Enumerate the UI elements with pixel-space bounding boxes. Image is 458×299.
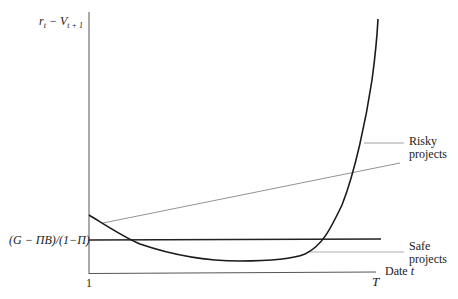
safe-label-line2: projects — [409, 253, 447, 266]
safe-projects-curve — [89, 19, 378, 261]
x-axis-label: Date t — [385, 265, 414, 278]
y-axis-label: rt − Vt + 1 — [39, 15, 83, 32]
x-start-label: 1 — [86, 277, 92, 290]
x-axis-label-var: t — [411, 264, 414, 278]
risky-label: Risky projects — [409, 135, 447, 161]
y-label-sub-t1: t + 1 — [67, 21, 83, 30]
x-axis — [89, 272, 376, 274]
x-axis-label-text: Date — [385, 264, 411, 278]
x-end-label: T — [372, 275, 379, 288]
threshold-label: (G − ΠB)/(1−Π) — [9, 234, 90, 247]
y-label-v: − V — [46, 14, 67, 28]
risky-label-line2: projects — [409, 148, 447, 161]
risky-projects-line — [103, 163, 400, 223]
chart-canvas — [0, 0, 458, 299]
safe-label: Safe projects — [409, 240, 447, 266]
